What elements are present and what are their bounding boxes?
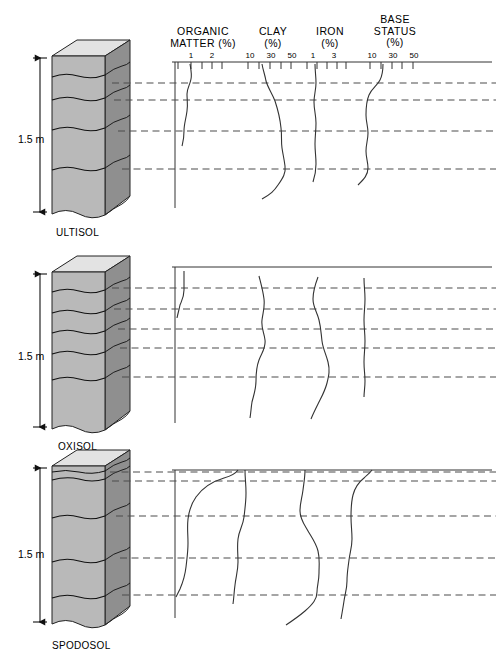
ultisol-curve-iron (313, 64, 316, 182)
oxisol-horizon-gridlines (112, 288, 496, 377)
spodosol-curve-organic-matter (176, 470, 238, 597)
oxisol-curve-base-status (364, 278, 365, 397)
figure-graphics (0, 0, 496, 663)
spodosol-curve-iron (286, 470, 319, 625)
ultisol-horizon-gridlines (112, 83, 496, 169)
ultisol-curve-organic-matter (182, 64, 191, 146)
figure-root: ORGANIC MATTER (%) CLAY (%) IRON (%) BAS… (0, 0, 496, 663)
ultisol-curve-base-status (358, 64, 383, 185)
spodosol-soil-column (52, 450, 130, 628)
ultisol-soil-column (52, 40, 130, 218)
spodosol-curve-clay (233, 470, 246, 604)
ultisol-ticks-iron (307, 62, 346, 69)
oxisol-curve-clay (250, 276, 265, 418)
spodosol-chart-axes (172, 470, 492, 618)
spodosol-curve-base-status (341, 470, 372, 619)
ultisol-chart-axes (172, 62, 492, 208)
oxisol-soil-column (52, 256, 130, 433)
ultisol-depth-arrow (33, 58, 47, 212)
spodosol-curves (176, 470, 372, 625)
ultisol-ticks-organic-matter (178, 62, 222, 69)
spodosol-depth-arrow (33, 468, 47, 622)
ultisol-ticks-clay (248, 62, 291, 69)
oxisol-curves (177, 271, 365, 419)
ultisol-ticks-base-status (370, 62, 413, 69)
oxisol-depth-arrow (33, 274, 47, 427)
oxisol-chart-axes (172, 267, 492, 423)
oxisol-curve-organic-matter (177, 271, 184, 318)
